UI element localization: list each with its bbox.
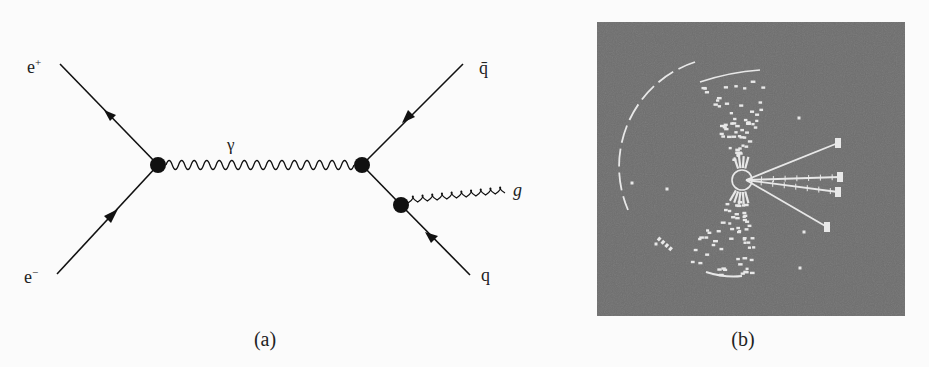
detector-hit (744, 119, 747, 121)
detector-hit (751, 123, 754, 125)
detector-hit (734, 85, 737, 87)
detector-hit (735, 149, 740, 151)
detector-hit (691, 261, 695, 263)
detector-hit (713, 240, 718, 242)
detector-hit (746, 123, 751, 125)
vertex-3 (393, 197, 409, 213)
detector-hit (717, 268, 721, 270)
detector-hit (724, 86, 728, 88)
quark-internal-line (362, 165, 401, 205)
detector-hit (712, 244, 716, 246)
detector-hit (748, 225, 752, 227)
detector-hit (730, 228, 734, 230)
detector-hit (743, 87, 746, 89)
figure: e+ e− γ q̄ q g (a) (b) (0, 0, 929, 367)
detector-hit (746, 268, 749, 270)
detector-hit (717, 97, 722, 99)
detector-hit (694, 249, 698, 251)
detector-hit (752, 246, 755, 248)
detector-hit (798, 117, 801, 120)
inner-track-stub (743, 192, 744, 204)
detector-hit (735, 213, 739, 215)
detector-hit (725, 103, 729, 105)
detector-hit (745, 131, 749, 133)
detector-hit (666, 188, 669, 191)
detector-hit (729, 147, 732, 149)
detector-hit (744, 242, 747, 244)
calorimeter-hit (835, 138, 841, 148)
detector-hit (721, 135, 725, 137)
panel-a-feynman-diagram: e+ e− γ q̄ q g (a) (24, 56, 522, 351)
vertex-2 (354, 157, 370, 173)
panel-b-caption: (b) (731, 328, 754, 351)
detector-hit (744, 271, 749, 273)
quark-label: q (481, 265, 490, 285)
detector-hit (735, 204, 740, 206)
detector-hit (724, 209, 728, 211)
detector-hit (731, 216, 735, 218)
vertex-1 (150, 157, 166, 173)
detector-hit (750, 272, 755, 274)
detector-hit (743, 136, 746, 138)
antiquark-arrow-icon (402, 110, 415, 123)
antiquark-label: q̄ (479, 58, 488, 78)
detector-hit (738, 263, 743, 265)
detector-hit (718, 105, 721, 107)
detector-hit (750, 259, 754, 261)
detector-hit (748, 246, 751, 248)
detector-hit (735, 217, 739, 219)
detector-hit (631, 182, 634, 185)
detector-hit (727, 136, 732, 138)
detector-hit (744, 204, 749, 206)
detector-hit (750, 111, 754, 113)
detector-hit (751, 237, 755, 239)
detector-hit (705, 91, 709, 93)
detector-hit (720, 133, 724, 135)
detector-hit (719, 248, 723, 250)
detector-hit (751, 81, 756, 83)
detector-hit (741, 144, 744, 146)
detector-hit (740, 129, 744, 131)
detector-hit (736, 227, 740, 229)
detector-hit (748, 140, 752, 142)
detector-hit (755, 113, 759, 115)
detector-hit (734, 131, 737, 133)
electron-label: e− (24, 266, 38, 287)
detector-hit (721, 221, 726, 223)
detector-hit (743, 219, 747, 221)
detector-hit (728, 222, 731, 224)
detector-hit (717, 230, 721, 232)
detector-hit (728, 210, 731, 212)
detector-hit (729, 238, 733, 240)
calorimeter-hit (837, 172, 843, 182)
detector-hit (736, 154, 740, 156)
detector-hit (733, 118, 736, 120)
photon-label: γ (226, 135, 235, 154)
detector-hit (719, 274, 724, 276)
inner-track-stub (739, 192, 741, 204)
calorimeter-hit (824, 222, 830, 232)
detector-hit (799, 267, 802, 270)
detector-hit (706, 229, 709, 231)
detector-hit (759, 101, 763, 103)
detector-hit (803, 231, 806, 234)
detector-hit (724, 128, 728, 130)
gluon-label: g (513, 180, 522, 200)
gluon-propagator (408, 187, 505, 203)
detector-hit (723, 269, 727, 271)
calorimeter-hit (835, 187, 841, 197)
detector-hit (730, 112, 733, 114)
detector-hit (742, 212, 746, 214)
photon-propagator (166, 161, 354, 170)
positron-label: e+ (27, 56, 41, 77)
detector-hit (698, 262, 702, 264)
panel-a-caption: (a) (254, 328, 276, 351)
detector-hit (735, 125, 740, 127)
detector-hit (738, 152, 742, 154)
detector-hit (655, 243, 658, 246)
detector-hit (716, 99, 719, 101)
detector-hit (761, 86, 765, 88)
detector-hit (743, 238, 746, 240)
detector-hit (730, 122, 734, 124)
quark-line (401, 205, 470, 275)
